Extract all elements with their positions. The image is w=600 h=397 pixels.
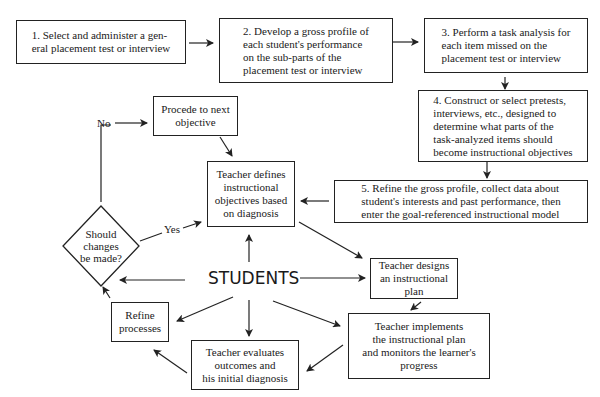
step4-box: 4. Construct or select pretests, intervi… (418, 90, 588, 162)
step5-box: 5. Refine the gross profile, collect dat… (334, 180, 588, 223)
refine-box: Refine processes (111, 302, 169, 342)
yes-label: Yes (164, 223, 180, 235)
proceed-box: Procede to next objective (153, 96, 238, 136)
designs-text: Teacher designs an instructional plan (379, 259, 449, 298)
step3-text: 3. Perform a task analysis for each item… (442, 26, 571, 65)
step3-box: 3. Perform a task analysis for each item… (424, 18, 588, 73)
proceed-text: Procede to next objective (161, 103, 229, 129)
evaluates-box: Teacher evaluates outcomes and his initi… (191, 340, 299, 390)
evaluates-text: Teacher evaluates outcomes and his initi… (202, 346, 288, 385)
step5-text: 5. Refine the gross profile, collect dat… (361, 182, 560, 221)
defines-text: Teacher defines instructional objectives… (215, 168, 287, 220)
no-label: No (97, 117, 110, 129)
implements-box: Teacher implements the instructional pla… (348, 313, 490, 379)
step4-text: 4. Construct or select pretests, intervi… (433, 94, 572, 159)
implements-text: Teacher implements the instructional pla… (362, 320, 475, 372)
decision-text: Should changes be made? (71, 228, 131, 264)
defines-box: Teacher defines instructional objectives… (207, 161, 295, 227)
designs-box: Teacher designs an instructional plan (370, 258, 458, 299)
step1-text: 1. Select and administer a gen- eral pla… (32, 29, 171, 55)
refine-text: Refine processes (119, 309, 161, 335)
step2-text: 2. Develop a gross profile of each stude… (243, 25, 369, 77)
students-label: STUDENTS (208, 268, 299, 288)
step2-box: 2. Develop a gross profile of each stude… (219, 18, 393, 83)
step1-box: 1. Select and administer a gen- eral pla… (16, 20, 186, 64)
